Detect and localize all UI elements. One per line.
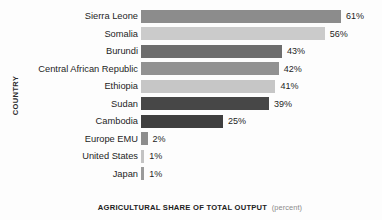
value-label: 1% bbox=[149, 167, 162, 181]
bar-row: Europe EMU2% bbox=[22, 132, 378, 146]
x-axis-title: AGRICULTURAL SHARE OF TOTAL OUTPUT (perc… bbox=[22, 196, 378, 214]
value-label: 2% bbox=[153, 132, 166, 146]
value-label: 56% bbox=[330, 27, 348, 41]
category-label: Somalia bbox=[22, 27, 138, 41]
bar bbox=[141, 167, 144, 180]
bar-row: Sierra Leone61% bbox=[22, 9, 378, 23]
bar bbox=[141, 45, 282, 58]
category-label: Central African Republic bbox=[22, 62, 138, 76]
bar-chart: COUNTRY Sierra Leone61%Somalia56%Burundi… bbox=[0, 0, 382, 220]
category-label: Sudan bbox=[22, 97, 138, 111]
x-axis-title-label: AGRICULTURAL SHARE OF TOTAL OUTPUT bbox=[98, 203, 267, 212]
bar bbox=[141, 115, 223, 128]
y-axis-title-label: COUNTRY bbox=[12, 75, 21, 115]
bar-row: Central African Republic42% bbox=[22, 62, 378, 76]
category-label: Europe EMU bbox=[22, 132, 138, 146]
bar bbox=[141, 150, 144, 163]
plot-area: Sierra Leone61%Somalia56%Burundi43%Centr… bbox=[22, 9, 378, 187]
bar bbox=[141, 10, 341, 23]
bar-row: Japan1% bbox=[22, 167, 378, 181]
value-label: 41% bbox=[280, 79, 298, 93]
bar bbox=[141, 80, 275, 93]
x-axis-unit-label: (percent) bbox=[272, 203, 302, 212]
value-label: 25% bbox=[228, 114, 246, 128]
bar-row: Ethiopia41% bbox=[22, 79, 378, 93]
category-label: Cambodia bbox=[22, 114, 138, 128]
value-label: 39% bbox=[274, 97, 292, 111]
bar bbox=[141, 27, 325, 40]
bar-row: Cambodia25% bbox=[22, 114, 378, 128]
bar-row: Burundi43% bbox=[22, 44, 378, 58]
value-label: 42% bbox=[284, 62, 302, 76]
bar-row: Sudan39% bbox=[22, 97, 378, 111]
category-label: Sierra Leone bbox=[22, 9, 138, 23]
bar bbox=[141, 62, 279, 75]
category-label: Japan bbox=[22, 167, 138, 181]
bar-row: Somalia56% bbox=[22, 27, 378, 41]
bar bbox=[141, 132, 148, 145]
category-label: United States bbox=[22, 149, 138, 163]
value-label: 1% bbox=[149, 149, 162, 163]
category-label: Ethiopia bbox=[22, 79, 138, 93]
value-label: 61% bbox=[346, 9, 364, 23]
bar-row: United States1% bbox=[22, 149, 378, 163]
value-label: 43% bbox=[287, 44, 305, 58]
bar bbox=[141, 97, 269, 110]
category-label: Burundi bbox=[22, 44, 138, 58]
